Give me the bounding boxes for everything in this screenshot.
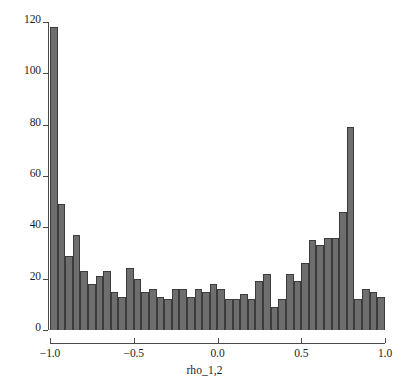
histogram-bar <box>157 297 165 330</box>
histogram-bar <box>324 238 332 330</box>
histogram-bar <box>286 274 294 330</box>
histogram-bar <box>179 289 187 330</box>
histogram-bar <box>50 27 58 330</box>
figure-caption <box>0 383 409 391</box>
x-axis-tick-mark <box>385 338 386 343</box>
histogram-bar <box>332 238 340 330</box>
histogram-bar <box>111 292 119 331</box>
histogram-bar <box>248 299 256 330</box>
histogram-bar <box>225 299 233 330</box>
x-axis-tick-label: 0.0 <box>210 348 224 360</box>
histogram-bar <box>347 127 355 330</box>
y-axis-tick-mark <box>43 330 48 331</box>
histogram-bar <box>309 240 317 330</box>
histogram-bar <box>134 279 142 330</box>
y-axis: 020406080100120 <box>0 22 50 330</box>
histogram-bar <box>172 289 180 330</box>
histogram-figure: 020406080100120 −1.0−0.50.00.51.0 rho_1,… <box>0 0 409 391</box>
histogram-bar <box>271 307 279 330</box>
histogram-bar <box>362 289 370 330</box>
x-axis-tick-label: 1.0 <box>378 348 392 360</box>
histogram-bar <box>141 292 149 331</box>
histogram-bar <box>126 268 134 330</box>
plot-area <box>50 22 385 330</box>
histogram-bar <box>263 274 271 330</box>
x-axis-tick-label: −0.5 <box>124 348 144 360</box>
histogram-bar <box>96 276 104 330</box>
histogram-bar <box>118 297 126 330</box>
y-axis-tick-label: 40 <box>30 219 41 231</box>
histogram-bar <box>103 271 111 330</box>
histogram-bar <box>73 235 81 330</box>
histogram-bar <box>58 204 66 330</box>
histogram-bar <box>316 245 324 330</box>
y-axis-tick-label: 0 <box>35 322 41 334</box>
x-axis-tick-mark <box>50 338 51 343</box>
x-axis-line <box>50 343 385 344</box>
histogram-bars <box>50 22 385 330</box>
histogram-bar <box>370 292 378 331</box>
y-axis-tick-label: 80 <box>30 117 41 129</box>
histogram-bar <box>164 299 172 330</box>
x-axis-tick-label: 0.5 <box>294 348 308 360</box>
x-axis-tick-mark <box>218 338 219 343</box>
histogram-bar <box>195 289 203 330</box>
histogram-bar <box>65 256 73 330</box>
x-axis-tick-label: −1.0 <box>40 348 60 360</box>
x-axis-title: rho_1,2 <box>0 364 409 376</box>
histogram-bar <box>210 284 218 330</box>
histogram-bar <box>294 281 302 330</box>
y-axis-tick-label: 100 <box>24 65 41 77</box>
histogram-bar <box>339 212 347 330</box>
histogram-bar <box>240 294 248 330</box>
histogram-bar <box>80 271 88 330</box>
histogram-bar <box>354 299 362 330</box>
histogram-bar <box>187 297 195 330</box>
histogram-bar <box>217 289 225 330</box>
histogram-bar <box>278 299 286 330</box>
histogram-bar <box>233 299 241 330</box>
histogram-bar <box>202 292 210 331</box>
y-axis-tick-label: 20 <box>30 271 41 283</box>
x-axis-tick-mark <box>134 338 135 343</box>
histogram-bar <box>88 284 96 330</box>
histogram-bar <box>377 297 385 330</box>
y-axis-line <box>48 22 49 330</box>
histogram-bar <box>255 281 263 330</box>
y-axis-tick-label: 120 <box>24 14 41 26</box>
x-axis-tick-mark <box>301 338 302 343</box>
histogram-bar <box>301 263 309 330</box>
y-axis-tick-label: 60 <box>30 168 41 180</box>
histogram-bar <box>149 289 157 330</box>
